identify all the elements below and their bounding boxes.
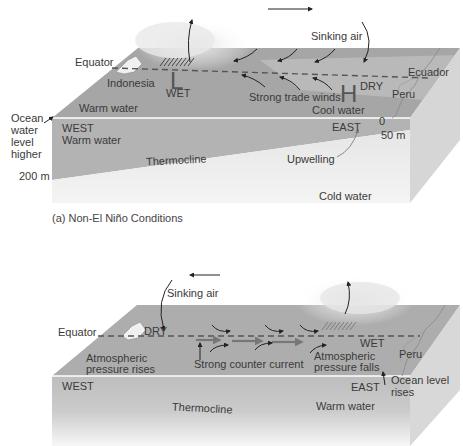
label-wet-a: WET (166, 87, 190, 99)
label-atm-rises-2: pressure rises (86, 363, 155, 375)
label-atm-falls-2: pressure falls (314, 361, 379, 373)
label-strong-trade-winds: Strong trade winds (249, 91, 341, 103)
label-east-b: EAST (351, 381, 380, 393)
label-dry-b: DRY (144, 325, 167, 337)
label-dry-a: DRY (360, 80, 383, 92)
label-sinking-air-a: Sinking air (311, 30, 362, 42)
label-ocean-level-2: water (11, 124, 38, 136)
label-ecuador: Ecuador (408, 66, 449, 78)
caption-panel-a: (a) Non-El Niño Conditions (52, 212, 183, 224)
label-ocean-level-3: level (11, 136, 34, 148)
label-cold-water: Cold water (319, 190, 372, 202)
label-equator-b: Equator (58, 326, 97, 338)
label-warm-water-side: Warm water (62, 134, 121, 146)
label-cool-water: Cool water (312, 104, 365, 116)
label-depth-200: 200 m (19, 170, 50, 182)
label-depth-50: 50 m (381, 129, 405, 141)
label-sinking-air-b: Sinking air (167, 287, 218, 299)
label-depth-0: 0 (379, 115, 385, 127)
label-warm-water-surface: Warm water (79, 102, 138, 114)
label-ocean-rises-2: rises (391, 386, 414, 398)
label-west-b: WEST (62, 380, 94, 392)
label-ocean-level-4: higher (11, 148, 42, 160)
label-upwelling: Upwelling (287, 153, 335, 165)
label-strong-counter-current: Strong counter current (194, 358, 303, 370)
label-peru-a: Peru (392, 88, 415, 100)
label-ocean-rises-1: Ocean level (391, 374, 449, 386)
label-warm-water-b: Warm water (316, 400, 375, 412)
label-high-pressure: H (340, 82, 357, 106)
label-west-a: WEST (62, 122, 94, 134)
label-indonesia: Indonesia (107, 77, 155, 89)
label-east-a: EAST (332, 121, 361, 133)
label-ocean-level-1: Ocean (11, 112, 43, 124)
label-wet-b: WET (360, 337, 384, 349)
label-peru-b: Peru (399, 348, 422, 360)
label-equator-a: Equator (75, 56, 114, 68)
